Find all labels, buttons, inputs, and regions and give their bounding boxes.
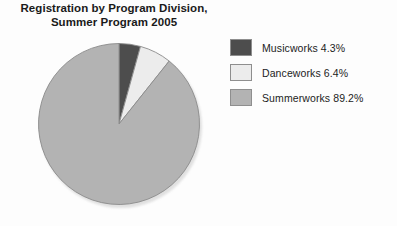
legend-swatch-musicworks: [230, 39, 252, 56]
pie-slice-group: [39, 44, 200, 205]
legend-label-danceworks: Danceworks 6.4%: [262, 67, 348, 79]
chart-legend: Musicworks 4.3% Danceworks 6.4% Summerwo…: [230, 35, 395, 110]
chart-title-line-2: Summer Program 2005: [0, 16, 228, 30]
pie-chart-figure: Registration by Program Division, Summer…: [0, 0, 397, 226]
chart-title: Registration by Program Division, Summer…: [0, 2, 228, 29]
legend-item-musicworks[interactable]: Musicworks 4.3%: [230, 35, 395, 60]
pie-svg: [38, 42, 202, 208]
legend-label-summerworks: Summerworks 89.2%: [262, 92, 363, 104]
chart-title-line-1: Registration by Program Division,: [0, 2, 228, 16]
pie-slice-summerworks[interactable]: [39, 44, 200, 205]
legend-item-danceworks[interactable]: Danceworks 6.4%: [230, 60, 395, 85]
legend-label-musicworks: Musicworks 4.3%: [262, 42, 345, 54]
legend-swatch-summerworks: [230, 89, 252, 106]
pie-plot-area: [38, 42, 202, 208]
legend-item-summerworks[interactable]: Summerworks 89.2%: [230, 85, 395, 110]
legend-swatch-danceworks: [230, 64, 252, 81]
